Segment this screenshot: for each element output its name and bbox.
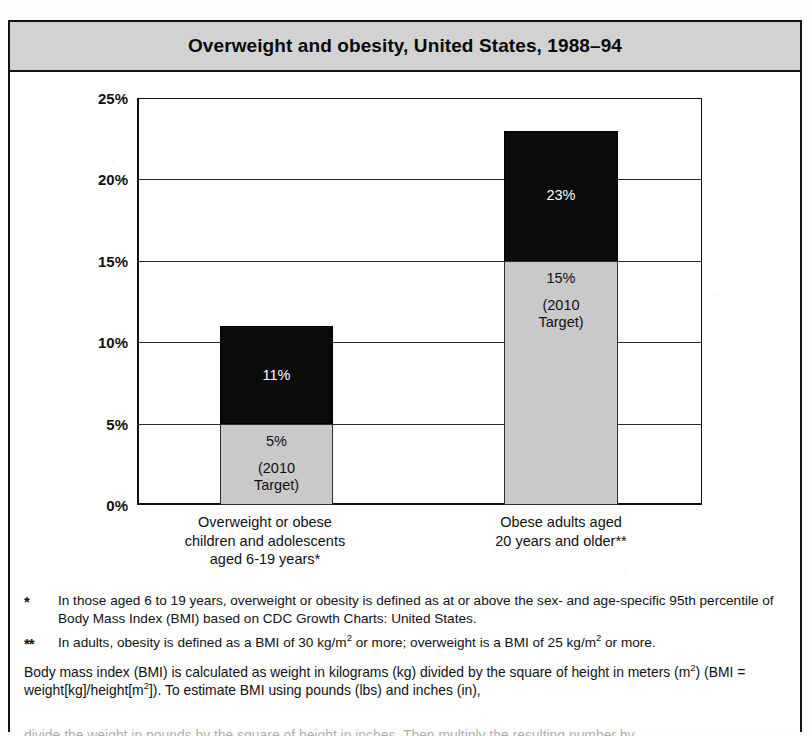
footnote-2-text-b: or more; overweight is a BMI of 25 kg/m [352, 635, 596, 650]
bar-group: 23%15%(2010Target) [504, 131, 618, 505]
chart-plot-wrapper: 0%5%10%15%20%25% 11%5%(2010Target)23%15%… [137, 98, 702, 505]
x-axis-category-label-line: aged 6-19 years* [114, 550, 416, 569]
bar-segment-target: 15%(2010Target) [504, 261, 618, 505]
bmi-paragraph: Body mass index (BMI) is calculated as w… [24, 663, 786, 699]
bmi-paragraph-a: Body mass index (BMI) is calculated as w… [24, 664, 690, 680]
y-axis-tick-label: 25% [98, 90, 128, 107]
page-title: Overweight and obesity, United States, 1… [188, 35, 622, 57]
footnotes: * In those aged 6 to 19 years, overweigh… [24, 592, 786, 699]
bar-segment-target: 5%(2010Target) [220, 424, 333, 505]
footnote-1: * In those aged 6 to 19 years, overweigh… [24, 592, 786, 627]
figure-title-band: Overweight and obesity, United States, 1… [8, 20, 802, 72]
bar-target-note-line: (2010 [538, 297, 583, 314]
bar-target-note-line: (2010 [254, 460, 299, 477]
footnote-2-text: In adults, obesity is defined as a BMI o… [58, 634, 786, 652]
footnote-1-marker: * [24, 593, 29, 610]
x-axis-category-label-line: 20 years and older** [433, 532, 689, 551]
bar-group: 11%5%(2010Target) [220, 326, 333, 505]
bar-value-label-target: 15% [546, 271, 575, 286]
y-axis-tick-label: 0% [106, 497, 128, 514]
y-axis-tick-label: 20% [98, 171, 128, 188]
footnote-2-text-c: or more. [601, 635, 655, 650]
x-axis-category-label-line: Obese adults aged [433, 513, 689, 532]
x-axis-category-label-line: Overweight or obese [114, 513, 416, 532]
x-axis-category-label: Obese adults aged20 years and older** [433, 513, 689, 550]
footnote-2: ** In adults, obesity is defined as a BM… [24, 634, 786, 652]
bar-value-label-target: 5% [266, 434, 287, 449]
bmi-paragraph-clipped-line: divide the weight in pounds by the squar… [24, 726, 786, 736]
bmi-paragraph-c: ]). To estimate BMI using pounds (lbs) a… [149, 682, 481, 698]
bar-target-note-line: Target) [254, 477, 299, 494]
footnote-1-text: In those aged 6 to 19 years, overweight … [58, 592, 786, 627]
y-axis-tick-label: 5% [106, 415, 128, 432]
y-axis-tick-label: 10% [98, 334, 128, 351]
bar-segment-actual: 11% [220, 326, 333, 424]
bar-value-label-actual: 23% [546, 188, 575, 203]
footnote-2-text-a: In adults, obesity is defined as a BMI o… [58, 635, 347, 650]
x-axis-category-label: Overweight or obesechildren and adolesce… [114, 513, 416, 569]
bar-segment-actual: 23% [504, 131, 618, 261]
bar-value-label-actual: 11% [263, 368, 291, 383]
bar-target-note-line: Target) [538, 314, 583, 331]
y-axis-tick-label: 15% [98, 252, 128, 269]
x-axis-category-label-line: children and adolescents [114, 532, 416, 551]
footnote-2-marker: ** [24, 635, 34, 652]
